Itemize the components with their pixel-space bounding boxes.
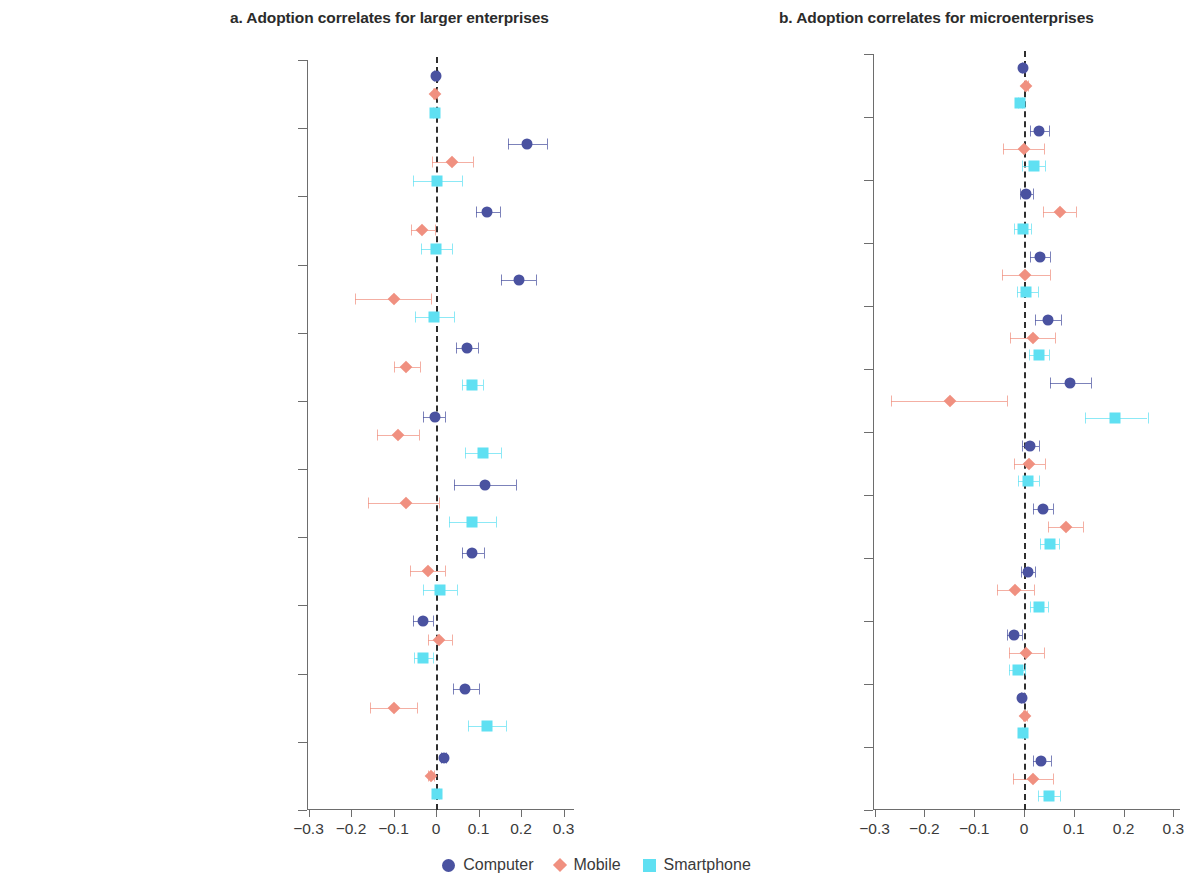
smartphone-point-marker	[428, 312, 439, 323]
smartphone-point-marker	[1028, 160, 1039, 171]
error-bar-cap	[1014, 223, 1015, 234]
x-axis-tick-label: 0.1	[1063, 820, 1085, 838]
legend-label: Mobile	[573, 856, 620, 874]
error-bar-cap	[1039, 475, 1040, 486]
computer-point-marker	[459, 684, 470, 695]
error-bar-cap	[377, 430, 378, 441]
error-bar-cap	[1048, 601, 1049, 612]
error-bar-cap	[1014, 458, 1015, 469]
zero-reference-line-a	[436, 57, 438, 810]
x-axis-tick	[1124, 810, 1125, 817]
computer-point-marker	[461, 343, 472, 354]
y-axis-tick	[864, 369, 873, 370]
x-axis-tick-label: −0.2	[336, 820, 367, 838]
computer-point-marker	[1024, 441, 1035, 452]
error-bar-cap	[1051, 756, 1052, 767]
error-bar-cap	[1033, 504, 1034, 515]
y-axis-tick	[298, 401, 307, 402]
error-bar-cap	[462, 547, 463, 558]
computer-point-marker	[1037, 504, 1048, 515]
error-bar-cap	[452, 634, 453, 645]
y-axis-tick	[298, 265, 307, 266]
x-axis-tick-label: 0.2	[510, 820, 532, 838]
error-bar-cap	[419, 430, 420, 441]
error-bar-cap	[1059, 538, 1060, 549]
y-axis-tick	[864, 495, 873, 496]
y-axis-tick	[298, 60, 307, 61]
computer-point-marker	[1064, 378, 1075, 389]
diamond-icon	[553, 858, 567, 872]
error-bar-cap	[483, 380, 484, 391]
error-bar-cap	[1050, 252, 1051, 263]
legend-item-smartphone[interactable]: Smartphone	[643, 856, 751, 874]
computer-point-marker	[1018, 63, 1029, 74]
computer-point-marker	[418, 616, 429, 627]
error-bar-cap	[1030, 252, 1031, 263]
error-bar-cap	[1050, 269, 1051, 280]
legend-item-mobile[interactable]: Mobile	[555, 856, 620, 874]
error-bar-cap	[1076, 206, 1077, 217]
smartphone-point-marker	[482, 721, 493, 732]
error-bar-cap	[536, 275, 537, 286]
y-axis-tick	[864, 243, 873, 244]
error-bar-cap	[1148, 412, 1149, 423]
error-bar-cap	[462, 175, 463, 186]
x-axis-tick	[1024, 810, 1025, 817]
error-bar-cap	[1040, 538, 1041, 549]
error-bar-cap	[1048, 521, 1049, 532]
x-axis-tick	[1074, 810, 1075, 817]
error-bar-cap	[1030, 601, 1031, 612]
error-bar-cap	[355, 293, 356, 304]
y-axis-tick	[298, 810, 307, 811]
error-bar-cap	[1061, 315, 1062, 326]
error-bar-cap	[1009, 647, 1010, 658]
error-bar-cap	[1009, 664, 1010, 675]
smartphone-point-marker	[1044, 538, 1055, 549]
error-bar-cap	[516, 479, 517, 490]
error-bar-cap	[445, 566, 446, 577]
figure-root: a. Adoption correlates for larger enterp…	[0, 0, 1193, 883]
error-bar-cap	[1025, 664, 1026, 675]
smartphone-point-marker	[1109, 412, 1120, 423]
error-bar-cap	[1083, 521, 1084, 532]
smartphone-point-marker	[1015, 97, 1026, 108]
error-bar-cap	[484, 547, 485, 558]
error-bar-cap	[453, 684, 454, 695]
error-bar-cap	[1010, 332, 1011, 343]
error-bar-cap	[1033, 756, 1034, 767]
error-bar-cap	[1045, 160, 1046, 171]
error-bar-cap	[1091, 378, 1092, 389]
error-bar-cap	[1038, 790, 1039, 801]
x-axis-tick	[564, 810, 565, 817]
error-bar-cap	[457, 584, 458, 595]
error-bar-cap	[1022, 160, 1023, 171]
x-axis-tick-label: −0.3	[859, 820, 890, 838]
error-bar-cap	[414, 652, 415, 663]
y-axis-tick	[864, 306, 873, 307]
error-bar-cap	[1055, 332, 1056, 343]
x-axis-tick-label: 0.2	[1113, 820, 1135, 838]
error-bar-cap	[1034, 584, 1035, 595]
smartphone-point-marker	[435, 584, 446, 595]
legend-item-computer[interactable]: Computer	[442, 856, 533, 874]
square-icon	[643, 859, 656, 872]
error-bar-cap	[1002, 269, 1003, 280]
x-axis-tick	[974, 810, 975, 817]
error-bar-cap	[1060, 790, 1061, 801]
computer-point-marker	[429, 411, 440, 422]
error-bar-cap	[420, 361, 421, 372]
smartphone-point-marker	[431, 175, 442, 186]
computer-point-marker	[1022, 567, 1033, 578]
y-axis-tick	[298, 674, 307, 675]
smartphone-point-marker	[1043, 790, 1054, 801]
y-axis-tick	[864, 432, 873, 433]
error-bar-cap	[439, 498, 440, 509]
x-axis-tick	[394, 810, 395, 817]
error-bar-cap	[1030, 126, 1031, 137]
error-bar-cap	[368, 498, 369, 509]
smartphone-point-marker	[1021, 286, 1032, 297]
y-axis-tick	[298, 196, 307, 197]
y-axis-tick	[864, 558, 873, 559]
error-bar-cap	[501, 275, 502, 286]
error-bar-cap	[432, 157, 433, 168]
